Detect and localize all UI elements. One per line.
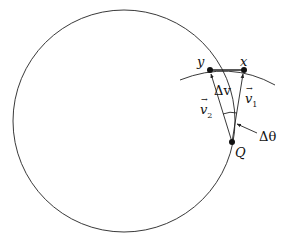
label-v2: →v2 <box>200 103 212 120</box>
diagram-svg <box>0 0 289 243</box>
label-delta-theta: Δθ <box>259 130 276 143</box>
diagram-canvas: y x Q Δv →v1 →v2 Δθ <box>0 0 289 243</box>
label-v1: →v1 <box>245 92 257 109</box>
label-delta-v: Δv <box>214 84 231 97</box>
vector-v1 <box>232 74 243 142</box>
label-x: x <box>240 55 247 68</box>
label-Q: Q <box>235 146 246 159</box>
label-y: y <box>197 55 204 68</box>
point-y <box>207 67 213 73</box>
delta-theta-pointer <box>237 124 257 133</box>
large-circle <box>13 10 235 232</box>
